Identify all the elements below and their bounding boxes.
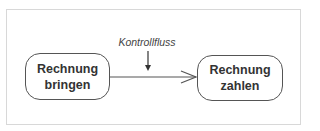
annotation-arrowhead-icon xyxy=(145,65,151,71)
node-label-line2: bringen xyxy=(45,77,91,93)
activity-node-rechnung-bringen: Rechnung bringen xyxy=(25,53,110,100)
activity-node-rechnung-zahlen: Rechnung zahlen xyxy=(197,55,283,101)
annotation-label: Kontrollfluss xyxy=(112,36,182,48)
node-label-line1: Rechnung xyxy=(37,61,98,77)
node-label-line2: zahlen xyxy=(221,78,260,94)
node-label-line1: Rechnung xyxy=(209,62,270,78)
